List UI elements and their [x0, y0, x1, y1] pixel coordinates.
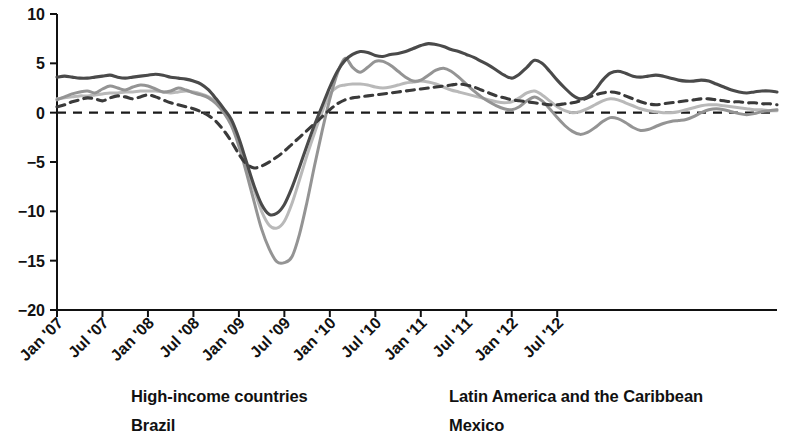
series-line-high-income-countries: [57, 44, 777, 215]
y-axis-tick-label: 5: [36, 55, 45, 72]
y-axis-tick-label: −5: [27, 154, 45, 171]
legend-item-latin-america[interactable]: Latin America and the Caribbean: [396, 387, 756, 406]
x-axis-tick-label: Jan '09: [198, 314, 248, 364]
series-line-mexico: [57, 84, 777, 168]
legend-item-high-income[interactable]: High-income countries: [78, 387, 396, 406]
line-chart-plot: 1050−5−10−15−20Jan '07Jul '07Jan '08Jul …: [0, 0, 787, 380]
legend-label-latin-america: Latin America and the Caribbean: [449, 387, 703, 406]
x-axis-tick-label: Jan '07: [16, 314, 66, 364]
legend-item-brazil[interactable]: Brazil: [78, 416, 396, 435]
legend-label-high-income: High-income countries: [131, 387, 308, 406]
legend-label-mexico: Mexico: [449, 416, 504, 435]
x-axis-tick-label: Jul '10: [338, 314, 385, 361]
y-axis-tick-label: −10: [18, 203, 45, 220]
y-axis-tick-label: −15: [18, 253, 45, 270]
x-axis-tick-label: Jul '11: [429, 314, 475, 360]
series-line-brazil: [57, 58, 777, 263]
x-axis-tick-label: Jan '08: [107, 314, 157, 364]
x-axis-tick-label: Jan '11: [381, 314, 430, 363]
x-axis-tick-label: Jul '09: [247, 314, 294, 361]
chart-figure: 1050−5−10−15−20Jan '07Jul '07Jan '08Jul …: [0, 0, 787, 442]
legend-label-brazil: Brazil: [131, 416, 175, 435]
y-axis-tick-label: −20: [18, 302, 45, 319]
y-axis-tick-label: 10: [27, 6, 45, 23]
chart-legend: High-income countries Latin America and …: [78, 382, 778, 440]
y-axis-tick-label: 0: [36, 105, 45, 122]
x-axis-tick-label: Jul '08: [156, 314, 203, 361]
x-axis-tick-label: Jan '12: [471, 314, 521, 364]
x-axis-tick-label: Jul '07: [65, 314, 112, 361]
legend-item-mexico[interactable]: Mexico: [396, 416, 756, 435]
x-axis-tick-label: Jan '10: [289, 314, 339, 364]
x-axis-tick-label: Jul '12: [520, 314, 567, 361]
